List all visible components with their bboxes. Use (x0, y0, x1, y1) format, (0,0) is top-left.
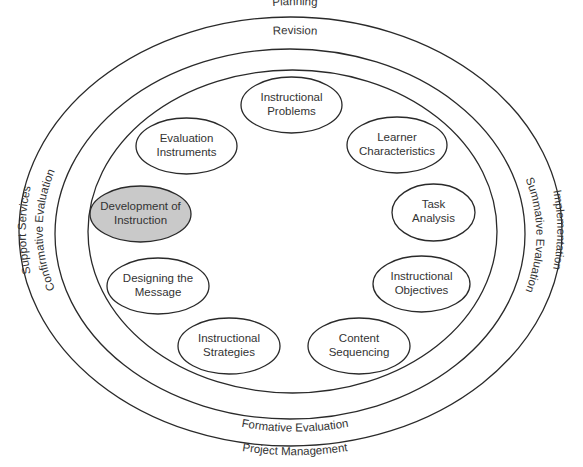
node-designing-the-message: Designing the Message (107, 258, 209, 314)
node-label-line2: Sequencing (329, 346, 390, 358)
ring-label-summative-evaluation: Summative Evaluation (524, 176, 547, 295)
node-label-line2: Analysis (412, 212, 455, 224)
node-instructional-strategies: Instructional Strategies (178, 318, 280, 374)
node-label-line1: Instructional (390, 270, 452, 282)
ring-label-project-management-text: Project Management (242, 441, 349, 457)
node-label-line1: Content (339, 332, 380, 344)
node-label-line1: Evaluation (160, 132, 214, 144)
ring-label-summative-evaluation-text: Summative Evaluation (524, 176, 547, 295)
ring-label-planning: Planning (272, 0, 318, 8)
node-instructional-objectives: Instructional Objectives (373, 256, 470, 312)
node-label-line2: Instruction (114, 214, 167, 226)
ring-label-implementation-text: Implementation (551, 189, 567, 271)
ring-label-project-management: Project Management (242, 441, 349, 457)
node-label-line2: Characteristics (359, 145, 435, 157)
node-label-line1: Instructional (198, 332, 260, 344)
node-label-line1: Designing the (123, 272, 193, 284)
node-label-line1: Instructional (260, 91, 322, 103)
node-label-line2: Problems (267, 105, 316, 117)
ring-label-revision-text: Revision (272, 24, 317, 37)
node-label-line2: Instruments (156, 146, 216, 158)
node-label-line2: Objectives (395, 284, 449, 296)
instructional-design-model-diagram: Planning Project Management Support Serv… (0, 0, 583, 467)
node-development-of-instruction: Development of Instruction (90, 186, 191, 242)
ring-label-planning-text: Planning (272, 0, 318, 8)
node-label-line1: Learner (377, 131, 417, 143)
ring-label-revision: Revision (272, 24, 317, 37)
node-instructional-problems: Instructional Problems (241, 77, 342, 133)
node-evaluation-instruments: Evaluation Instruments (136, 118, 237, 174)
ring-label-support-services: Support Services (16, 184, 33, 275)
ring-label-confirmative-evaluation: Confirmative Evaluation (33, 167, 57, 293)
node-label-line1: Task (422, 198, 446, 210)
node-content-sequencing: Content Sequencing (308, 318, 410, 374)
ring-label-confirmative-evaluation-text: Confirmative Evaluation (33, 167, 57, 293)
ring-label-support-services-text: Support Services (16, 184, 33, 275)
node-label-line2: Message (135, 286, 182, 298)
node-task-analysis: Task Analysis (392, 184, 475, 241)
node-learner-characteristics: Learner Characteristics (347, 117, 447, 173)
ring-label-implementation: Implementation (551, 189, 567, 271)
node-label-line1: Development of (100, 200, 181, 212)
node-label-line2: Strategies (203, 346, 255, 358)
